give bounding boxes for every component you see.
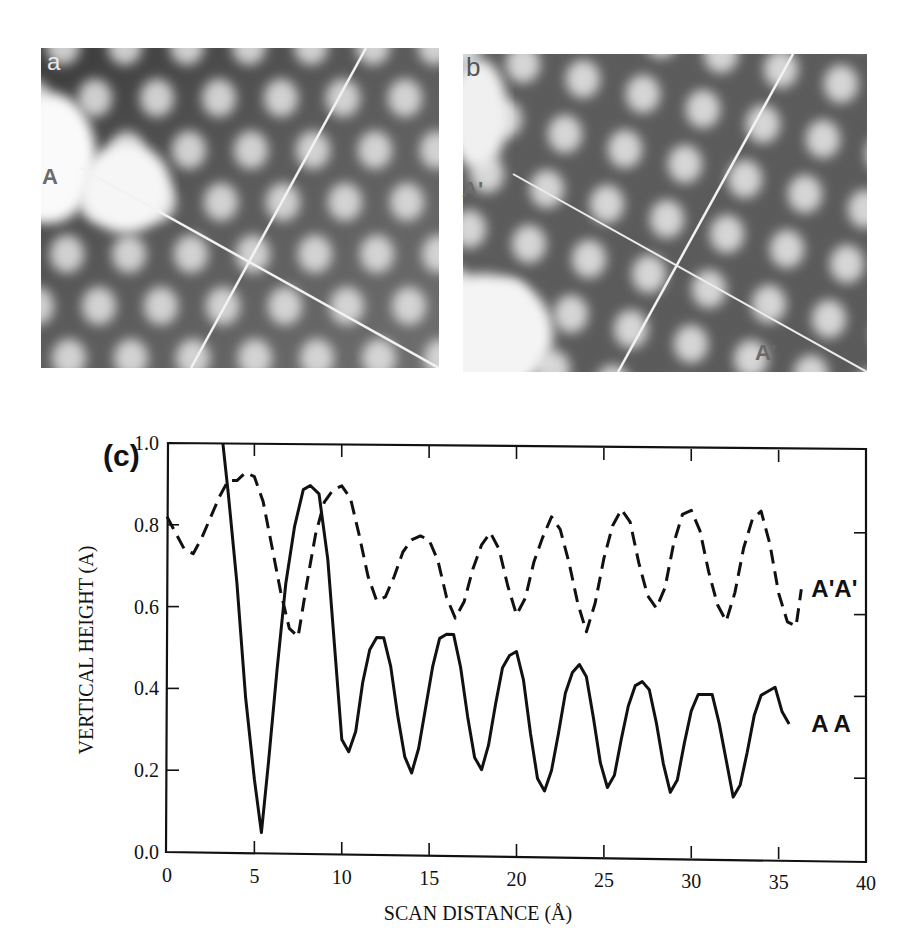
- x-tick-label: 5: [249, 865, 259, 887]
- x-tick-label: 10: [332, 866, 352, 888]
- x-tick-label: 15: [419, 867, 439, 889]
- x-tick-label: 25: [594, 869, 614, 891]
- series-label: A'A': [811, 575, 857, 602]
- series-label: A A: [811, 710, 851, 737]
- y-tick-label: 0.8: [134, 514, 159, 536]
- x-tick-label: 35: [769, 871, 789, 893]
- y-tick-label: 0.2: [134, 759, 159, 781]
- panel-c-letter: (c): [103, 439, 140, 472]
- chart-series: A'A'A A: [167, 444, 857, 833]
- x-axis-title: SCAN DISTANCE (Å): [384, 902, 572, 925]
- line-profile-chart: 0510152025303540 0.00.20.40.60.81.0 A'A'…: [0, 0, 907, 947]
- y-axis-title: VERTICAL HEIGHT (A): [75, 546, 98, 755]
- x-tick-label: 40: [856, 872, 876, 894]
- x-axis-ticks: 0510152025303540: [162, 444, 876, 894]
- series-line-aprime-aprime: [167, 473, 801, 637]
- y-tick-label: 0.4: [134, 677, 159, 699]
- y-tick-label: 0.6: [134, 596, 159, 618]
- x-tick-label: 0: [162, 864, 172, 886]
- series-line-a-a: [223, 444, 789, 833]
- x-tick-label: 20: [507, 868, 527, 890]
- y-axis-ticks: 0.00.20.40.60.81.0: [134, 432, 866, 863]
- y-tick-label: 0.0: [134, 841, 159, 863]
- x-tick-label: 30: [681, 870, 701, 892]
